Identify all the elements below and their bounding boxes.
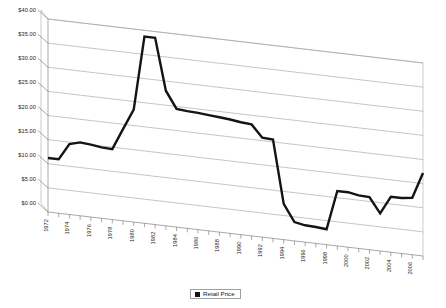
y-axis-tick-mark — [38, 82, 48, 91]
x-axis-tick-labels: 1972197419761978198019821984198619881990… — [43, 219, 413, 275]
x-axis-tick-label: 1984 — [172, 234, 178, 247]
gridline — [48, 116, 423, 160]
axis-walls — [41, 10, 423, 256]
y-axis-tick-mark — [38, 10, 48, 19]
x-axis-tick-label: 1974 — [64, 222, 70, 235]
series-line-retail-price — [48, 37, 423, 230]
y-axis-tick-labels: $0.00$5.00$10.00$15.00$20.00$25.00$30.00… — [18, 7, 36, 206]
y-axis-tick-label: $10.00 — [18, 152, 36, 158]
x-axis-tick-label: 1994 — [279, 247, 285, 260]
x-axis-tick-label: 1988 — [214, 239, 220, 252]
data-series-lines — [48, 37, 423, 230]
y-axis-tick-label: $5.00 — [22, 176, 37, 182]
plot-top-edge — [48, 19, 423, 63]
y-axis-tick-label: $30.00 — [18, 55, 36, 61]
gridline — [48, 188, 423, 232]
y-axis-tick-label: $25.00 — [18, 79, 36, 85]
x-axis-tick-label: 1998 — [322, 252, 328, 265]
gridline — [48, 91, 423, 135]
x-axis-tick-label: 2002 — [364, 257, 370, 270]
x-axis-tick-label: 2006 — [407, 262, 413, 275]
y-axis-tick-label: $15.00 — [18, 128, 36, 134]
y-axis-tick-mark — [38, 179, 48, 188]
y-axis-tick-mark — [38, 58, 48, 67]
legend-label-retail-price: Retail Price — [203, 291, 235, 297]
y-axis-tick-mark — [38, 107, 48, 116]
x-axis-tick-label: 1996 — [300, 249, 306, 262]
y-axis-tick-label: $20.00 — [18, 104, 36, 110]
x-axis-tick-label: 1978 — [107, 227, 113, 240]
gridline — [48, 43, 423, 87]
chart-legend: Retail Price — [190, 289, 241, 299]
gridlines — [48, 19, 423, 256]
gridline — [48, 67, 423, 111]
y-axis-tick-mark — [38, 203, 48, 212]
y-axis-tick-label: $0.00 — [22, 200, 37, 206]
y-axis-depth-connector-bottom — [41, 203, 48, 212]
x-axis-tick-label: 2000 — [343, 254, 349, 267]
x-axis-tick-label: 1982 — [150, 232, 156, 245]
x-axis-tick-label: 1972 — [43, 219, 49, 232]
x-axis-tick-label: 2004 — [386, 259, 392, 272]
x-axis-tick-label: 1976 — [86, 224, 92, 237]
x-axis-tick-label: 1990 — [236, 242, 242, 255]
y-axis-tick-label: $35.00 — [18, 31, 36, 37]
y-axis-tick-mark — [38, 34, 48, 43]
x-axis-tick-label: 1986 — [193, 237, 199, 250]
legend-swatch-retail-price — [195, 292, 200, 297]
line-chart-plot: $0.00$5.00$10.00$15.00$20.00$25.00$30.00… — [0, 0, 446, 308]
y-axis-tick-label: $40.00 — [18, 7, 36, 13]
gridline — [48, 164, 423, 208]
gridline — [48, 140, 423, 184]
x-axis-tick-label: 1992 — [257, 244, 263, 257]
y-axis-tick-mark — [38, 155, 48, 164]
y-axis-tick-mark — [38, 131, 48, 140]
y-axis-tick-marks — [38, 10, 48, 212]
x-axis-tick-label: 1980 — [129, 229, 135, 242]
chart-container: $0.00$5.00$10.00$15.00$20.00$25.00$30.00… — [0, 0, 446, 308]
y-axis-depth-connector-top — [41, 10, 48, 19]
